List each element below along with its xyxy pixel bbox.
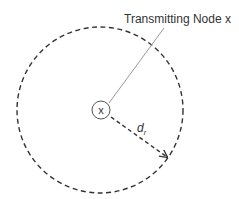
- node-label: x: [98, 104, 104, 116]
- range-diagram: x dr Transmitting Node x: [0, 0, 239, 199]
- transmitting-node-label: Transmitting Node x: [124, 12, 231, 26]
- leader-line: [109, 28, 164, 103]
- radius-label: dr: [137, 121, 147, 136]
